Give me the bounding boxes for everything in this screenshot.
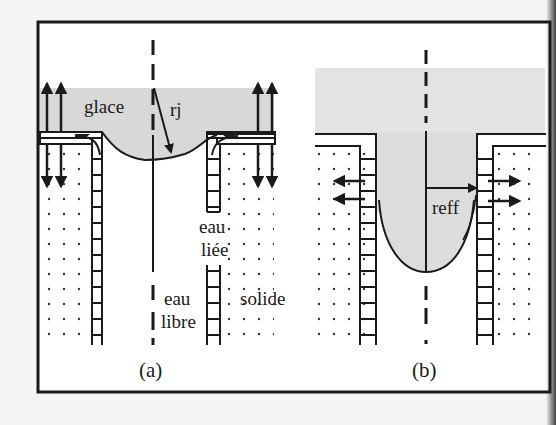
caption-a: (a) (139, 358, 162, 382)
label-radius-rj: rj (170, 99, 182, 120)
solid-right-a (222, 146, 274, 344)
label-bound-water-2: liée (201, 239, 228, 260)
solid-left-a (42, 146, 90, 344)
label-solid: solide (240, 288, 285, 309)
label-ice: glace (84, 96, 124, 117)
ice-region-b (315, 68, 545, 133)
label-free-water-2: libre (161, 311, 196, 332)
page-edge-shadow (546, 0, 556, 425)
caption-b: (b) (412, 358, 437, 382)
label-radius-reff: reff (432, 197, 460, 218)
bound-water-left-a (92, 135, 102, 345)
pore-ice-diagram: glace rj eau liée eau libre solide (a) (0, 0, 556, 425)
label-free-water-1: eau (164, 288, 191, 309)
label-bound-water-1: eau (199, 216, 226, 237)
